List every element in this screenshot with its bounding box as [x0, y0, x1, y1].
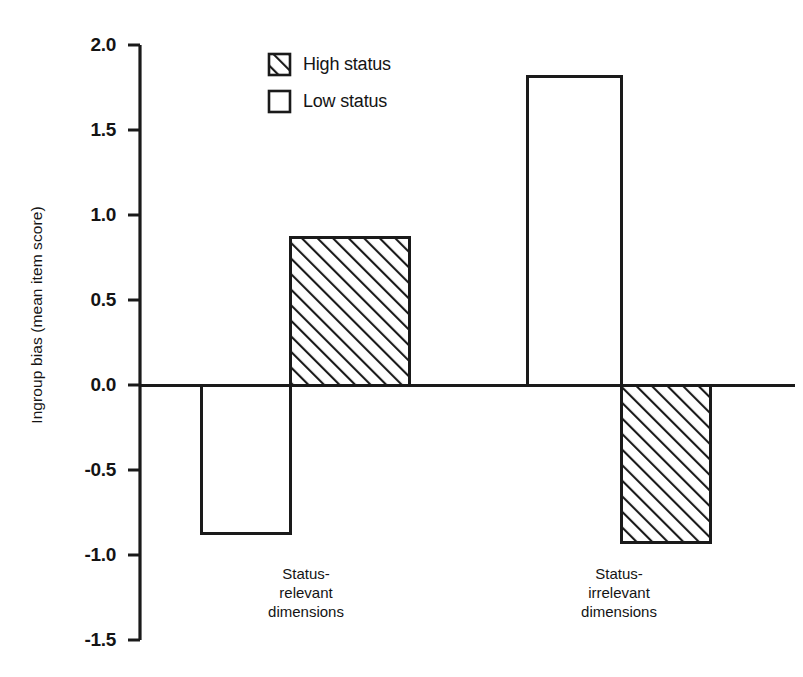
legend-swatch-high-status	[269, 54, 290, 75]
category-label-group2-line2: irrelevant	[519, 583, 719, 602]
category-label-group1-line3: dimensions	[206, 602, 406, 621]
y-tick-label-1-0: 1.0	[52, 204, 116, 226]
category-label-group1-line1: Status-	[206, 564, 406, 583]
y-tick-label-0-5: 0.5	[52, 289, 116, 311]
y-tick-label-0-0: 0.0	[52, 374, 116, 396]
bar-group2-high-status	[622, 386, 711, 543]
bar-group1-low-status	[202, 386, 291, 534]
legend-label-high-status: High status	[303, 54, 391, 75]
y-tick-label-2-0: 2.0	[52, 34, 116, 56]
y-tick-label-neg-1-5: -1.5	[52, 629, 116, 651]
legend-swatch-low-status	[269, 91, 290, 112]
y-tick-label-neg-1-0: -1.0	[52, 544, 116, 566]
y-tick-label-neg-0-5: -0.5	[52, 459, 116, 481]
bar-chart-figure: 2.0 1.5 1.0 0.5 0.0 -0.5 -1.0 -1.5 Ingro…	[0, 0, 803, 677]
bar-group1-high-status	[291, 238, 410, 386]
category-label-group1-line2: relevant	[206, 583, 406, 602]
y-tick-label-1-5: 1.5	[52, 119, 116, 141]
legend-label-low-status: Low status	[303, 91, 387, 112]
bar-group2-low-status	[528, 77, 622, 386]
category-label-group2-line1: Status-	[519, 564, 719, 583]
category-label-group2-line3: dimensions	[519, 602, 719, 621]
y-axis-title: Ingroup bias (mean item score)	[28, 150, 46, 480]
